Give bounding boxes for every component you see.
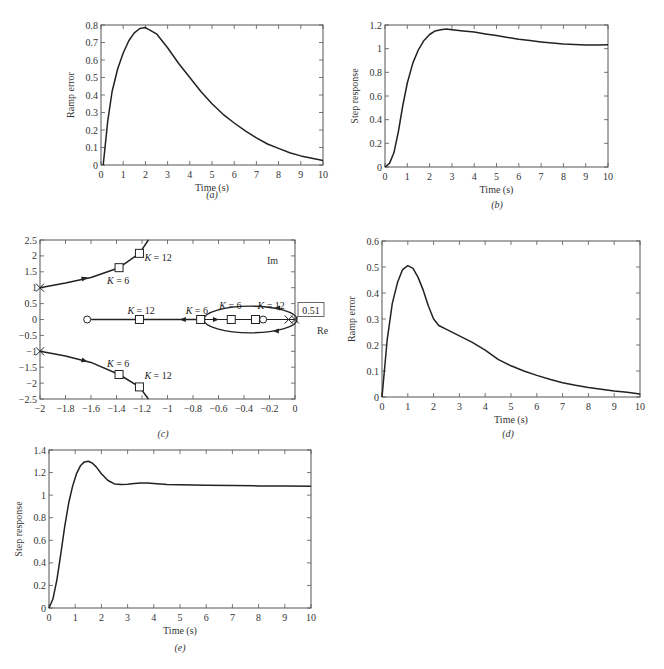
x-axis-label: Time (s)	[480, 184, 514, 196]
plot-frame	[382, 241, 640, 397]
gain-annotation: K = 6	[218, 300, 241, 311]
chart-d: 01234567891000.10.20.30.40.50.6Time (s)R…	[346, 236, 645, 441]
chart-c: −2−1.8−1.6−1.4−1.2−1−0.8−0.6−0.4−0.20−2.…	[19, 235, 329, 441]
data-line	[103, 28, 323, 165]
x-tick-label: 10	[306, 612, 316, 623]
y-tick-label: 0.8	[86, 20, 99, 31]
x-tick-label: 8	[586, 401, 591, 412]
y-axis-label: Step response	[349, 68, 360, 124]
x-tick-label: 5	[210, 169, 215, 180]
x-tick-label: −1.2	[133, 403, 151, 414]
direction-arrow-icon	[273, 328, 279, 333]
x-tick-label: 3	[125, 612, 130, 623]
direction-arrow-icon	[213, 317, 219, 322]
x-tick-label: 8	[276, 169, 281, 180]
gain-annotation: K = 12	[256, 300, 284, 311]
y-tick-label: 1	[377, 43, 382, 54]
x-tick-label: 1	[405, 171, 410, 182]
x-tick-label: 0	[99, 169, 104, 180]
x-tick-label: 6	[232, 169, 237, 180]
panel-caption: (d)	[502, 428, 514, 440]
x-tick-label: 4	[187, 169, 192, 180]
x-tick-label: 6	[204, 612, 209, 623]
x-tick-label: 0	[380, 401, 385, 412]
y-tick-label: 0.1	[86, 142, 99, 153]
y-tick-label: −0.5	[19, 330, 37, 341]
y-axis-label: Ramp error	[346, 295, 357, 341]
y-tick-label: 0	[32, 314, 37, 325]
gain-annotation: K = 12	[126, 305, 154, 316]
gain-marker-label: 0.51	[302, 305, 320, 316]
x-tick-label: 2	[143, 169, 148, 180]
x-tick-label: 1	[405, 401, 410, 412]
y-tick-label: 0.6	[34, 535, 47, 546]
x-tick-label: 9	[612, 401, 617, 412]
panel-caption: (a)	[206, 189, 218, 201]
y-tick-label: 0.2	[86, 125, 99, 136]
y-tick-label: 0.4	[370, 114, 383, 125]
x-tick-label: 1	[73, 612, 78, 623]
y-tick-label: −1	[26, 346, 37, 357]
x-tick-label: −0.6	[209, 403, 227, 414]
x-tick-label: 9	[282, 612, 287, 623]
gain-square-marker-icon	[115, 371, 123, 379]
data-line	[382, 266, 640, 397]
x-tick-label: 4	[483, 401, 488, 412]
y-tick-label: 0.1	[367, 366, 380, 377]
y-axis-label: Ramp error	[65, 71, 76, 117]
y-tick-label: 0.4	[34, 557, 47, 568]
y-tick-label: 0.2	[34, 580, 47, 591]
x-tick-label: 9	[583, 171, 588, 182]
x-tick-label: 5	[509, 401, 514, 412]
plot-frame	[49, 450, 311, 608]
direction-arrow-icon	[180, 317, 186, 322]
x-tick-label: 3	[457, 401, 462, 412]
x-tick-label: 5	[494, 171, 499, 182]
y-tick-label: 0.8	[34, 512, 47, 523]
zero-marker-icon	[84, 316, 91, 323]
gain-annotation: K = 6	[106, 358, 129, 369]
y-axis-label: Im	[267, 255, 278, 266]
x-axis-label: Time (s)	[494, 414, 528, 426]
x-tick-label: 10	[635, 401, 645, 412]
y-tick-label: 0.4	[86, 90, 99, 101]
gain-annotation: K = 12	[143, 370, 171, 381]
x-tick-label: 3	[449, 171, 454, 182]
x-tick-label: 5	[178, 612, 183, 623]
gain-annotation: K = 6	[106, 275, 129, 286]
gain-square-marker-icon	[115, 264, 123, 272]
chart-a: 01234567891000.10.20.30.40.50.60.70.8Tim…	[65, 20, 328, 202]
figure-canvas: 01234567891000.10.20.30.40.50.60.70.8Tim…	[0, 0, 664, 669]
y-tick-label: 0	[374, 392, 379, 403]
gain-annotation: K = 6	[185, 305, 208, 316]
y-tick-label: 0.5	[367, 262, 380, 273]
y-tick-label: 0	[41, 603, 46, 614]
gain-square-marker-icon	[197, 316, 205, 324]
x-tick-label: 10	[318, 169, 328, 180]
x-tick-label: 9	[298, 169, 303, 180]
y-tick-label: 0	[377, 162, 382, 173]
y-tick-label: −1.5	[19, 362, 37, 373]
plot-frame	[385, 25, 608, 167]
gain-square-marker-icon	[227, 316, 235, 324]
x-tick-label: −2	[35, 403, 46, 414]
x-tick-label: −0.4	[235, 403, 253, 414]
x-tick-label: 0	[47, 612, 52, 623]
x-tick-label: 4	[472, 171, 477, 182]
x-tick-label: 8	[561, 171, 566, 182]
x-tick-label: 1	[121, 169, 126, 180]
x-tick-label: 8	[256, 612, 261, 623]
panel-caption: (b)	[491, 199, 503, 211]
y-tick-label: 1.2	[370, 20, 383, 31]
y-tick-label: 0.8	[370, 67, 383, 78]
y-tick-label: 0.3	[86, 107, 99, 118]
x-tick-label: 2	[427, 171, 432, 182]
y-tick-label: 0.3	[367, 314, 380, 325]
y-tick-label: 0	[93, 160, 98, 171]
y-tick-label: 0.2	[367, 340, 380, 351]
x-tick-label: 0	[293, 403, 298, 414]
x-tick-label: −1	[162, 403, 173, 414]
y-tick-label: 2	[32, 250, 37, 261]
x-tick-label: 6	[516, 171, 521, 182]
data-line	[385, 29, 608, 167]
